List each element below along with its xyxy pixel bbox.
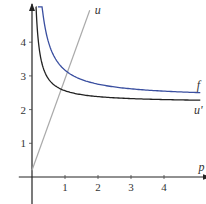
series-label-u-prime: u': [194, 103, 203, 117]
series-u-line: [32, 10, 90, 170]
x-tick-label: 2: [95, 181, 101, 193]
series-group: [32, 7, 200, 170]
x-tick-label: 4: [161, 181, 167, 193]
y-tick-label: 4: [21, 36, 27, 48]
y-tick-label: 3: [21, 70, 27, 82]
chart: 12341234 pufu': [0, 0, 206, 204]
labels: pufu': [95, 3, 205, 174]
series-f-curve: [38, 7, 200, 93]
ticks: 12341234: [21, 36, 168, 193]
x-axis-label: p: [198, 160, 205, 174]
series-label-f: f: [197, 78, 202, 92]
x-tick-label: 1: [62, 181, 68, 193]
x-tick-label: 3: [128, 181, 134, 193]
series-label-u: u: [95, 3, 101, 17]
y-tick-label: 1: [21, 137, 27, 149]
y-tick-label: 2: [21, 104, 27, 116]
series-u-prime-curve: [36, 7, 200, 100]
